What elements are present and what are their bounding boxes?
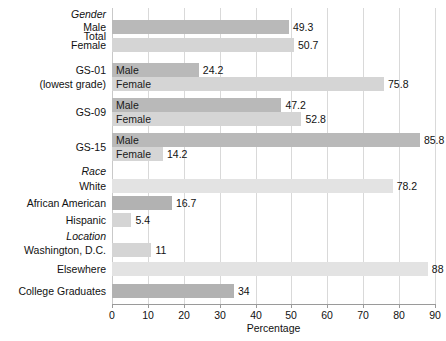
bar (112, 284, 234, 298)
bar-value-label: 11 (151, 245, 166, 256)
x-tick-70 (363, 304, 364, 308)
plot-area: 49.350.7Male24.2Female75.8Male47.2Female… (112, 8, 435, 304)
bar-value-label: 50.7 (294, 40, 318, 51)
bar (112, 179, 393, 193)
x-axis-line (112, 304, 435, 305)
horizontal-bar-chart: 49.350.7Male24.2Female75.8Male47.2Female… (0, 0, 446, 341)
bar-row: 49.3 (112, 20, 435, 34)
x-tick-80 (399, 304, 400, 308)
axis-label-hispanic: Hispanic (66, 214, 106, 226)
bar (112, 262, 428, 276)
bar-row: 11 (112, 243, 435, 257)
gridline-90 (435, 8, 436, 304)
bar-row: 88 (112, 262, 435, 276)
x-tick-label-20: 20 (178, 309, 190, 321)
x-tick-60 (327, 304, 328, 308)
bar-row: Male85.8 (112, 133, 435, 147)
bar-row: Female52.8 (112, 112, 435, 126)
bar-value-label: 47.2 (281, 100, 305, 111)
bar (112, 133, 420, 147)
bar-value-label: 49.3 (289, 22, 313, 33)
bar-row: 34 (112, 284, 435, 298)
bar-value-label: 34 (234, 286, 250, 297)
bar-value-label: 88 (428, 264, 444, 275)
x-tick-label-60: 60 (321, 309, 333, 321)
x-tick-20 (184, 304, 185, 308)
x-tick-50 (291, 304, 292, 308)
bar-value-label: 24.2 (199, 65, 223, 76)
bar (112, 38, 294, 52)
bar-row: Male47.2 (112, 98, 435, 112)
axis-label-african-american: African American (27, 197, 106, 209)
bar-row: 50.7 (112, 38, 435, 52)
bar-value-label: 5.4 (131, 215, 150, 226)
axis-group-gs01: GS-01 (76, 64, 106, 76)
axis-label-white: White (79, 180, 106, 192)
x-tick-40 (256, 304, 257, 308)
x-tick-label-80: 80 (393, 309, 405, 321)
bar-value-label: 14.2 (163, 149, 187, 160)
bar-value-label: 52.8 (301, 114, 325, 125)
x-tick-label-70: 70 (357, 309, 369, 321)
bar (112, 20, 289, 34)
bar-row: Male24.2 (112, 63, 435, 77)
bar (112, 77, 384, 91)
x-tick-label-0: 0 (109, 309, 115, 321)
bar-inline-label: Female (116, 114, 151, 125)
axis-group-label-location: Location (66, 230, 106, 242)
bar-row: Female75.8 (112, 77, 435, 91)
bar-inline-label: Male (116, 65, 139, 76)
axis-group-gs09: GS-09 (76, 106, 106, 118)
bar-row: 5.4 (112, 213, 435, 227)
axis-group-gs15: GS-15 (76, 141, 106, 153)
axis-group-label-gender: Gender (71, 8, 106, 20)
x-tick-90 (435, 304, 436, 308)
axis-group-total: Total (84, 30, 106, 42)
bar-row: 16.7 (112, 196, 435, 210)
bar-value-label: 75.8 (384, 79, 408, 90)
x-tick-30 (220, 304, 221, 308)
bar-row: 78.2 (112, 179, 435, 193)
bar-value-label: 16.7 (172, 198, 196, 209)
x-tick-10 (148, 304, 149, 308)
page-footer-artifact (300, 336, 446, 341)
bar-value-label: 78.2 (393, 181, 417, 192)
x-tick-label-90: 90 (429, 309, 441, 321)
bar-row: Female14.2 (112, 147, 435, 161)
x-tick-label-10: 10 (142, 309, 154, 321)
axis-group-label-race: Race (81, 165, 106, 177)
category-axis-labels: GenderMaleFemaleRaceWhiteAfrican America… (0, 0, 110, 341)
axis-label-washington-d-c: Washington, D.C. (24, 244, 106, 256)
axis-label-elsewhere: Elsewhere (57, 263, 106, 275)
x-tick-0 (112, 304, 113, 308)
bar (112, 196, 172, 210)
axis-group-gs01-sub: (lowest grade) (39, 78, 106, 90)
bar-inline-label: Male (116, 100, 139, 111)
bar-inline-label: Male (116, 135, 139, 146)
x-tick-label-30: 30 (214, 309, 226, 321)
axis-label-college-graduates: College Graduates (18, 285, 106, 297)
bar (112, 213, 131, 227)
x-axis-title: Percentage (112, 322, 435, 334)
x-tick-label-50: 50 (285, 309, 297, 321)
bar-inline-label: Female (116, 149, 151, 160)
bar-inline-label: Female (116, 79, 151, 90)
bar (112, 243, 151, 257)
x-tick-label-40: 40 (250, 309, 262, 321)
bar-value-label: 85.8 (420, 135, 444, 146)
